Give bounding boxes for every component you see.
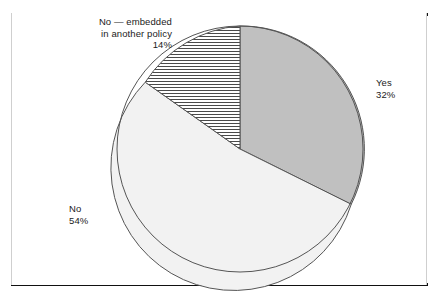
pie-label-yes: Yes 32% [376, 77, 395, 100]
pie-label-embedded-line2: in another policy [101, 28, 172, 39]
pie-label-yes-name: Yes [376, 77, 392, 88]
pie-label-no-percent: 54% [69, 215, 88, 227]
pie-label-embedded: No — embedded in another policy 14% [62, 16, 172, 51]
pie-chart: No — embedded in another policy 14% Yes … [0, 0, 439, 299]
pie-label-no-name: No [69, 203, 81, 214]
pie-label-embedded-line1: No — embedded [99, 16, 172, 27]
pie-label-yes-percent: 32% [376, 89, 395, 101]
pie-label-embedded-percent: 14% [62, 39, 172, 51]
pie-label-no: No 54% [69, 203, 88, 226]
